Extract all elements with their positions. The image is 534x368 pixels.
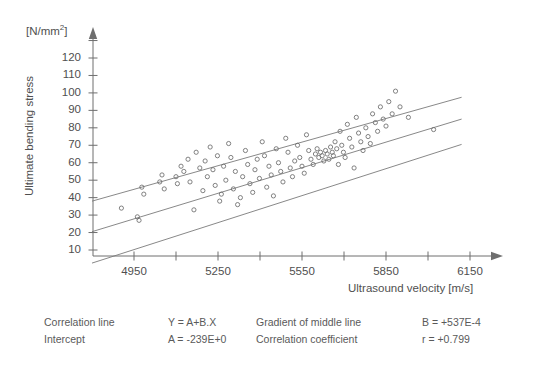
y-tick-label: 100	[51, 87, 81, 99]
data-point	[229, 155, 233, 159]
data-point	[186, 157, 190, 161]
data-point	[352, 166, 356, 170]
data-point	[253, 168, 257, 172]
data-point	[335, 147, 339, 151]
data-point	[265, 185, 269, 189]
data-point	[298, 155, 302, 159]
data-point	[370, 112, 374, 116]
data-point	[281, 180, 285, 184]
data-point	[348, 136, 352, 140]
data-point	[288, 166, 292, 170]
data-point	[398, 105, 402, 109]
data-point	[271, 194, 275, 198]
data-point	[236, 203, 240, 207]
data-point	[304, 133, 308, 137]
figure-caption: Correlation line Y = A+B.X Gradient of m…	[0, 316, 534, 350]
data-point	[384, 124, 388, 128]
data-point	[340, 143, 344, 147]
regression-line	[92, 119, 462, 232]
correlation-line-label: Correlation line	[44, 316, 115, 328]
correlation-coefficient-value: r = +0.799	[422, 333, 470, 345]
data-point	[307, 148, 311, 152]
data-point	[211, 168, 215, 172]
data-point	[364, 126, 368, 130]
data-point	[333, 140, 337, 144]
y-tick-label: 90	[51, 104, 81, 116]
data-point	[188, 180, 192, 184]
data-point	[160, 173, 164, 177]
y-tick-label: 20	[51, 227, 81, 239]
data-point	[218, 199, 222, 203]
y-tick-label: 80	[51, 122, 81, 134]
chart-figure: [N/mm2] Ultimate bending stress Ultrasou…	[0, 0, 534, 368]
data-point	[251, 190, 255, 194]
data-point	[366, 134, 370, 138]
data-point	[345, 122, 349, 126]
data-point	[222, 164, 226, 168]
data-point	[182, 169, 186, 173]
intercept-label: Intercept	[44, 333, 85, 345]
data-point	[246, 162, 250, 166]
data-point	[262, 154, 266, 158]
x-tick-label: 5850	[363, 266, 409, 278]
data-point	[205, 175, 209, 179]
data-point	[267, 164, 271, 168]
data-point	[194, 150, 198, 154]
data-point	[376, 129, 380, 133]
y-tick-label: 110	[51, 69, 81, 81]
data-point	[201, 189, 205, 193]
correlation-line-value: Y = A+B.X	[168, 316, 216, 328]
data-point	[350, 145, 354, 149]
data-point	[208, 145, 212, 149]
data-point	[315, 147, 319, 151]
data-point	[390, 112, 394, 116]
caption-row-1: Correlation line Y = A+B.X Gradient of m…	[0, 316, 534, 333]
x-tick-label: 5550	[279, 266, 325, 278]
data-point	[260, 140, 264, 144]
gradient-label: Gradient of middle line	[256, 316, 361, 328]
data-point	[198, 166, 202, 170]
x-axis-title: Ultrasound velocity [m/s]	[348, 283, 473, 295]
data-point	[276, 161, 280, 165]
x-tick-label: 6150	[447, 266, 493, 278]
data-points-group	[119, 89, 435, 222]
data-point	[290, 175, 294, 179]
data-point	[279, 169, 283, 173]
data-point	[162, 187, 166, 191]
data-point	[293, 159, 297, 163]
data-point	[284, 136, 288, 140]
data-point	[378, 105, 382, 109]
data-point	[343, 155, 347, 159]
data-point	[137, 218, 141, 222]
y-axis-unit-label: [N/mm2]	[26, 24, 68, 37]
caption-row-2: Intercept A = -239E+0 Correlation coeffi…	[0, 333, 534, 350]
data-point	[238, 196, 242, 200]
data-point	[243, 148, 247, 152]
data-point	[354, 115, 358, 119]
data-point	[320, 154, 324, 158]
y-tick-label: 30	[51, 209, 81, 221]
data-point	[142, 192, 146, 196]
data-point	[393, 89, 397, 93]
data-point	[203, 159, 207, 163]
data-point	[309, 157, 313, 161]
regression-line	[92, 97, 462, 201]
data-point	[227, 141, 231, 145]
data-point	[179, 164, 183, 168]
data-point	[313, 152, 317, 156]
data-point	[387, 100, 391, 104]
data-point	[336, 162, 340, 166]
data-point	[325, 152, 329, 156]
x-tick-label: 5250	[195, 266, 241, 278]
data-point	[233, 169, 237, 173]
data-point	[356, 131, 360, 135]
data-point	[192, 208, 196, 212]
data-point	[368, 141, 372, 145]
y-axis-title: Ultimate bending stress	[23, 61, 35, 211]
data-point	[215, 154, 219, 158]
tick-marks-group	[89, 41, 471, 261]
y-tick-label: 10	[51, 244, 81, 256]
regression-lines-group	[92, 97, 462, 263]
data-point	[269, 173, 273, 177]
intercept-value: A = -239E+0	[168, 333, 226, 345]
